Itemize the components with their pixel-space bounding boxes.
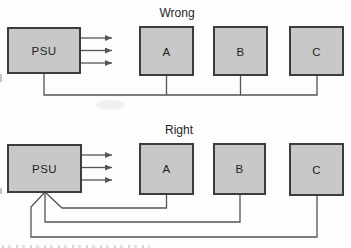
scan-speck-left-top [0, 74, 2, 82]
wrong-device-b-label: B [236, 46, 244, 58]
right-device-b-box: B [214, 144, 265, 194]
right-section-title: Right [165, 123, 194, 137]
wrong-section: Wrong PSU A B C [8, 6, 343, 95]
wrong-device-b-box: B [214, 27, 267, 75]
right-psu-label: PSU [32, 163, 57, 175]
wrong-psu-label: PSU [32, 45, 57, 57]
scan-smudge [96, 100, 124, 110]
wrong-device-c-box: C [290, 27, 343, 75]
wrong-psu-to-bus-wire [44, 73, 317, 95]
scan-speck-left-bottom [0, 188, 2, 194]
right-device-a-label: A [162, 163, 170, 175]
right-device-c-return-wire [31, 192, 317, 237]
wrong-device-a-label: A [162, 46, 170, 58]
figure-canvas: Wrong PSU A B C [0, 0, 351, 248]
right-device-c-box: C [290, 144, 343, 195]
wrong-device-a-box: A [140, 27, 193, 75]
wrong-device-c-label: C [312, 46, 321, 58]
right-device-b-return-wire [45, 192, 240, 222]
wrong-section-title: Wrong [159, 6, 194, 20]
right-device-b-label: B [235, 163, 243, 175]
right-device-c-label: C [312, 164, 321, 176]
wrong-psu-box: PSU [8, 28, 80, 73]
grounding-diagram-svg: Wrong PSU A B C [0, 0, 351, 248]
right-section: Right PSU A B C [8, 123, 343, 237]
right-device-a-box: A [140, 144, 193, 194]
right-psu-box: PSU [8, 145, 81, 192]
